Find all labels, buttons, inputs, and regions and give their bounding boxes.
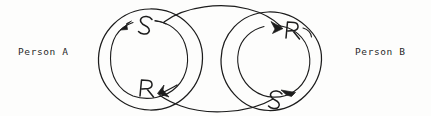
left-cycle-arrowhead (120, 21, 132, 30)
communication-loop-diagram: .ink { fill: none; stroke: #1c1c1c; stro… (0, 0, 431, 116)
top-connection-arc (164, 6, 281, 27)
right-inner-cycle-arc (238, 26, 310, 98)
left-node-r-glyph (140, 80, 154, 97)
right-cycle-arrowhead (281, 90, 296, 97)
left-outer-circle (98, 9, 202, 110)
right-r-tail-stroke (303, 28, 312, 37)
label-person-a: Person A (18, 46, 69, 57)
right-node-r-glyph (286, 22, 300, 39)
label-person-b: Person B (355, 46, 406, 57)
diagram-canvas: .ink { fill: none; stroke: #1c1c1c; stro… (0, 0, 431, 116)
left-node-s-glyph (139, 16, 153, 34)
